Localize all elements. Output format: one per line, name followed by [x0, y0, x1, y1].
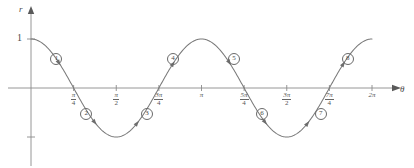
fraction: π2	[113, 92, 119, 108]
segment-marker-8: 8	[342, 53, 354, 65]
x-tick-label-5pi-over-4: 5π4	[229, 92, 259, 108]
fraction: 5π4	[240, 92, 249, 108]
x-tick-label-pi-over-2: π2	[101, 92, 131, 108]
segment-marker-label-2: 2	[85, 109, 89, 117]
fraction: 3π4	[154, 92, 163, 108]
segment-marker-label-3: 3	[145, 109, 149, 117]
fraction-denominator: 4	[154, 100, 163, 107]
y-axis-label: r	[19, 4, 23, 14]
x-tick-label-7pi-over-4: 7π4	[314, 92, 344, 108]
x-tick-label-3pi-over-2: 3π2	[272, 92, 302, 108]
y-tick-label-one: 1	[17, 32, 22, 43]
segment-marker-1: 1	[50, 53, 62, 65]
x-tick-label-2pi: 2π	[357, 92, 387, 99]
fraction-denominator: 2	[282, 100, 291, 107]
plot-canvas	[0, 0, 414, 168]
segment-marker-label-8: 8	[346, 54, 350, 62]
x-tick-label-pi-over-4: π4	[59, 92, 89, 108]
fraction-denominator: 4	[71, 100, 77, 107]
segment-marker-label-4: 4	[171, 54, 175, 62]
fraction: 7π4	[325, 92, 334, 108]
x-axis-label: θ	[400, 84, 404, 94]
y-axis-arrowhead	[28, 6, 34, 14]
x-tick-label-3pi-over-4: 3π4	[144, 92, 174, 108]
fraction-denominator: 4	[240, 100, 249, 107]
segment-marker-4: 4	[167, 53, 179, 65]
fraction: π4	[71, 92, 77, 108]
cosine-curve-figure: rθ1π4π23π4π5π43π27π42π12345678	[0, 0, 414, 168]
tick-text: 2π	[368, 91, 375, 99]
tick-text: π	[200, 91, 204, 99]
segment-marker-label-5: 5	[232, 54, 236, 62]
y-tick-label-one-text: 1	[17, 32, 22, 43]
segment-marker-5: 5	[228, 53, 240, 65]
fraction: 3π2	[282, 92, 291, 108]
fraction-denominator: 4	[325, 100, 334, 107]
x-axis-label-text: θ	[400, 84, 404, 94]
x-tick-label-pi: π	[187, 92, 217, 99]
segment-marker-label-6: 6	[260, 109, 264, 117]
segment-marker-label-7: 7	[319, 109, 323, 117]
y-axis-label-text: r	[19, 4, 23, 14]
segment-marker-label-1: 1	[55, 54, 59, 62]
fraction-denominator: 2	[113, 100, 119, 107]
